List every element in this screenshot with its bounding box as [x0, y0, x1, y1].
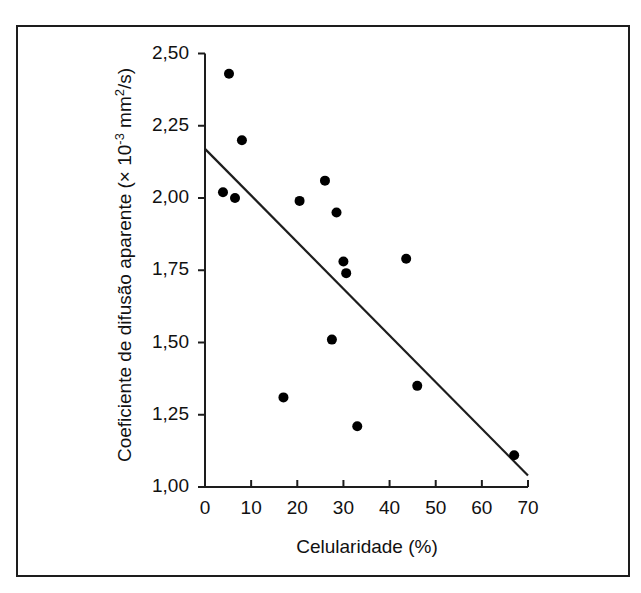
x-tick-label: 70	[508, 497, 548, 519]
data-point	[230, 193, 240, 203]
x-tick-label: 50	[416, 497, 456, 519]
data-point	[295, 196, 305, 206]
data-point	[224, 69, 234, 79]
x-axis-title: Celularidade (%)	[205, 536, 529, 558]
y-tick-label: 1,75	[127, 258, 189, 280]
x-tick-label: 20	[277, 497, 317, 519]
data-point	[338, 257, 348, 267]
y-tick-label: 2,00	[127, 186, 189, 208]
y-tick-label: 2,50	[127, 42, 189, 64]
data-point	[341, 268, 351, 278]
regression-line	[205, 149, 528, 476]
y-tick-label: 2,25	[127, 114, 189, 136]
axes-group	[198, 54, 528, 488]
data-point	[320, 176, 330, 186]
x-tick-label: 40	[370, 497, 410, 519]
data-point	[218, 187, 228, 197]
data-points-group	[218, 69, 519, 460]
y-tick-label: 1,50	[127, 331, 189, 353]
data-point	[327, 335, 337, 345]
data-point	[237, 135, 247, 145]
y-tick-label: 1,25	[127, 403, 189, 425]
data-point	[412, 381, 422, 391]
data-point	[401, 254, 411, 264]
x-tick-label: 10	[231, 497, 271, 519]
x-tick-label: 0	[185, 497, 225, 519]
x-tick-label: 30	[323, 497, 363, 519]
data-point	[332, 207, 342, 217]
y-tick-label: 1,00	[127, 475, 189, 497]
x-tick-label: 60	[462, 497, 502, 519]
data-point	[352, 421, 362, 431]
data-point	[278, 392, 288, 402]
data-point	[509, 450, 519, 460]
trendline	[205, 149, 528, 476]
